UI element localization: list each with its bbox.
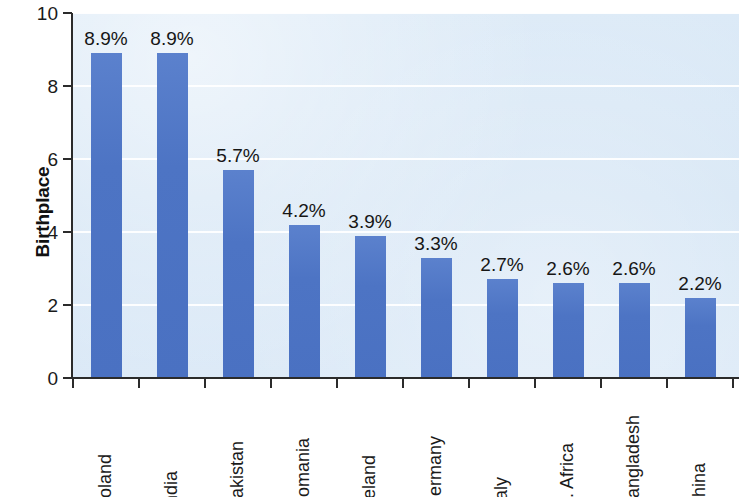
x-axis-tick-mark [732,379,734,388]
x-axis-category-label: Italy [492,477,510,497]
plot-area: 8.9%8.9%5.7%4.2%3.9%3.3%2.7%2.6%2.6%2.2% [72,13,739,378]
x-axis-tick-mark [270,379,272,388]
bar-value-label: 3.9% [330,212,410,231]
y-axis-tick-mark [63,158,72,160]
x-axis-category-label: Germany [426,436,444,497]
bar-value-label: 8.9% [132,29,212,48]
x-axis-category-label: Ireland [360,455,378,497]
y-axis-tick-mark [63,85,72,87]
x-axis-category-label: Poland [96,454,114,497]
y-axis-tick-label: 4 [0,223,58,242]
bar [157,53,188,378]
x-axis-category-label: India [162,471,180,497]
bar [487,279,518,378]
bar [289,225,320,378]
x-axis-tick-mark [666,379,668,388]
y-axis-tick-label: 0 [0,369,58,388]
x-axis-tick-mark [138,379,140,388]
bar [619,283,650,378]
bar-value-label: 5.7% [198,146,278,165]
x-axis-category-label: Bangladesh [624,415,642,497]
x-axis-tick-mark [468,379,470,388]
y-axis-tick-label: 10 [0,4,58,23]
y-axis-tick-mark [63,12,72,14]
bar-value-label: 3.3% [396,234,476,253]
x-axis-tick-mark [534,379,536,388]
y-axis-line [71,13,73,379]
y-axis-tick-mark [63,304,72,306]
bar-value-label: 2.2% [660,274,739,293]
bar [91,53,122,378]
x-axis-tick-mark [336,379,338,388]
y-axis-tick-label: 2 [0,296,58,315]
x-axis-category-label: Pakistan [228,441,246,497]
bar [421,258,452,378]
y-axis-tick-label: 6 [0,150,58,169]
x-axis-tick-mark [72,379,74,388]
x-axis-category-label: Romania [294,438,312,497]
x-axis-category-label: S. Africa [558,443,576,497]
x-axis-line [71,377,739,379]
bar [223,170,254,378]
y-axis-tick-label: 8 [0,77,58,96]
bar [355,236,386,378]
bar-chart-figure: Birthplace 8.9%8.9%5.7%4.2%3.9%3.3%2.7%2… [0,0,739,497]
x-axis-category-label: China [690,463,708,497]
x-axis-tick-mark [600,379,602,388]
bar [553,283,584,378]
gridline [72,12,739,14]
y-axis-tick-mark [63,377,72,379]
x-axis-tick-mark [402,379,404,388]
bar [685,298,716,378]
y-axis-tick-mark [63,231,72,233]
x-axis-tick-mark [204,379,206,388]
